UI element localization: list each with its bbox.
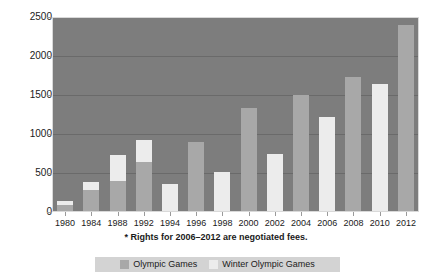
x-axis: 1980198419881992199419961998200020022004… — [52, 212, 419, 234]
bar-1980[interactable] — [57, 17, 73, 212]
y-axis-label-1500: 1500 — [10, 90, 52, 100]
x-axis-tick-2012 — [406, 212, 407, 216]
bar-segment-2012-olympic-games — [398, 25, 414, 212]
gridline-500 — [52, 173, 419, 174]
bar-1994[interactable] — [162, 17, 178, 212]
bar-segment-2004-olympic-games — [293, 95, 309, 212]
y-axis-label-1000: 1000 — [10, 129, 52, 139]
y-axis-tick-2000 — [47, 56, 52, 57]
bar-1988[interactable] — [110, 17, 126, 212]
bar-segment-1992-olympic-games — [136, 162, 152, 212]
y-axis-tick-500 — [47, 173, 52, 174]
x-axis-tick-1998 — [222, 212, 223, 216]
bar-segment-1980-olympic-games — [57, 205, 73, 212]
y-axis-label-2000: 2000 — [10, 51, 52, 61]
bar-segment-1988-olympic-games — [110, 181, 126, 212]
x-axis-tick-1996 — [196, 212, 197, 216]
bar-2010[interactable] — [372, 17, 388, 212]
bar-segment-2006-winter-olympic-games — [319, 117, 335, 212]
bar-segment-2008-olympic-games — [345, 77, 361, 212]
x-axis-label-2012: 2012 — [386, 218, 426, 229]
legend-item-olympic-games[interactable]: Olympic Games — [120, 260, 197, 269]
y-axis-tick-2500 — [47, 17, 52, 18]
x-axis-tick-2002 — [275, 212, 276, 216]
bar-segment-1994-winter-olympic-games — [162, 184, 178, 212]
x-axis-tick-1992 — [144, 212, 145, 216]
legend-label: Olympic Games — [133, 260, 197, 269]
x-axis-tick-1994 — [170, 212, 171, 216]
bar-2006[interactable] — [319, 17, 335, 212]
x-axis-tick-2008 — [353, 212, 354, 216]
x-axis-tick-2000 — [249, 212, 250, 216]
bar-segment-1980-winter-olympic-games — [57, 201, 73, 205]
gridline-1000 — [52, 134, 419, 135]
bar-1992[interactable] — [136, 17, 152, 212]
bar-1984[interactable] — [83, 17, 99, 212]
plot-area — [52, 17, 419, 212]
bar-2000[interactable] — [241, 17, 257, 212]
y-axis-tick-1500 — [47, 95, 52, 96]
x-axis-tick-2006 — [327, 212, 328, 216]
bar-segment-1984-winter-olympic-games — [83, 182, 99, 190]
y-axis-label-0: 0 — [10, 207, 52, 217]
bar-2008[interactable] — [345, 17, 361, 212]
y-axis: 05001000150020002500 — [0, 0, 52, 232]
x-axis-tick-2004 — [301, 212, 302, 216]
bar-segment-1988-winter-olympic-games — [110, 155, 126, 180]
bar-1998[interactable] — [214, 17, 230, 212]
bar-segment-1984-olympic-games — [83, 190, 99, 212]
bar-1996[interactable] — [188, 17, 204, 212]
gridline-2000 — [52, 56, 419, 57]
gridline-1500 — [52, 95, 419, 96]
x-axis-tick-1984 — [91, 212, 92, 216]
bar-segment-1996-olympic-games — [188, 142, 204, 212]
bar-2004[interactable] — [293, 17, 309, 212]
chart-footnote: * Rights for 2006–2012 are negotiated fe… — [0, 232, 432, 242]
legend-swatch-icon — [120, 260, 129, 269]
bar-segment-2000-olympic-games — [241, 108, 257, 212]
chart-legend: Olympic GamesWinter Olympic Games — [95, 257, 340, 272]
bar-2002[interactable] — [267, 17, 283, 212]
x-axis-tick-1980 — [65, 212, 66, 216]
legend-item-winter-olympic-games[interactable]: Winter Olympic Games — [209, 260, 315, 269]
legend-label: Winter Olympic Games — [222, 260, 315, 269]
bar-segment-1992-winter-olympic-games — [136, 140, 152, 163]
y-axis-tick-1000 — [47, 134, 52, 135]
x-axis-tick-1988 — [118, 212, 119, 216]
y-axis-label-500: 500 — [10, 168, 52, 178]
bar-segment-2010-winter-olympic-games — [372, 84, 388, 212]
x-axis-tick-2010 — [380, 212, 381, 216]
bar-segment-1998-winter-olympic-games — [214, 172, 230, 212]
y-axis-label-2500: 2500 — [10, 12, 52, 22]
bar-segment-2002-winter-olympic-games — [267, 154, 283, 212]
legend-swatch-icon — [209, 260, 218, 269]
chart-root: 05001000150020002500 1980198419881992199… — [0, 0, 432, 272]
bar-2012[interactable] — [398, 17, 414, 212]
